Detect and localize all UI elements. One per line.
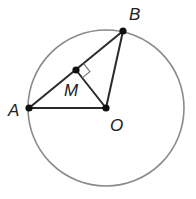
label-O: O	[110, 116, 123, 135]
point-O	[102, 104, 109, 111]
point-B	[119, 27, 126, 34]
point-A	[25, 104, 32, 111]
label-M: M	[64, 81, 79, 100]
geometry-diagram: A B M O	[0, 0, 196, 199]
label-B: B	[129, 5, 140, 24]
point-M	[72, 66, 79, 73]
label-A: A	[7, 101, 19, 120]
segment-MO	[76, 70, 106, 108]
right-angle-marker	[82, 64, 90, 78]
